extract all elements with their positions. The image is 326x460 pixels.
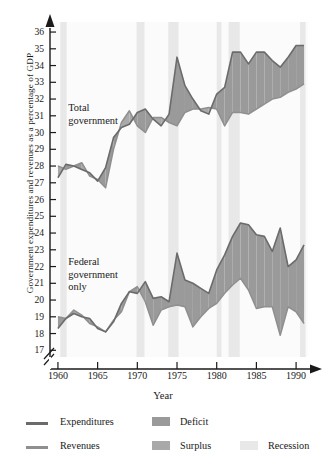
x-tick-1970: 1970 (117, 370, 157, 381)
x-tick-1980: 1980 (197, 370, 237, 381)
legend-swatch-recession (240, 441, 258, 450)
legend-label-deficit: Deficit (180, 416, 208, 427)
y-tick-22: 22 (18, 262, 44, 272)
x-tick-1990: 1990 (276, 370, 316, 381)
y-tick-32: 32 (18, 94, 44, 104)
y-tick-23: 23 (18, 245, 44, 255)
y-tick-25: 25 (18, 211, 44, 221)
legend-swatch-deficit (152, 417, 170, 426)
y-tick-20: 20 (18, 295, 44, 305)
x-tick-1985: 1985 (236, 370, 276, 381)
legend-swatch-surplus (152, 441, 170, 450)
y-tick-35: 35 (18, 44, 44, 54)
legend-swatch-revenues (26, 446, 48, 449)
x-tick-1960: 1960 (38, 370, 78, 381)
chart-legend: Expenditures Revenues Deficit Surplus Re… (0, 408, 326, 460)
y-tick-24: 24 (18, 228, 44, 238)
y-tick-26: 26 (18, 195, 44, 205)
legend-label-surplus: Surplus (180, 440, 211, 451)
legend-label-revenues: Revenues (60, 440, 100, 451)
y-tick-33: 33 (18, 77, 44, 87)
y-tick-27: 27 (18, 178, 44, 188)
y-tick-17: 17 (18, 345, 44, 355)
y-tick-18: 18 (18, 329, 44, 339)
y-tick-29: 29 (18, 144, 44, 154)
x-tick-1975: 1975 (157, 370, 197, 381)
annotation-total-government: Totalgovernment (68, 102, 118, 127)
y-tick-21: 21 (18, 278, 44, 288)
legend-label-recession: Recession (268, 440, 309, 451)
legend-label-expenditures: Expenditures (60, 416, 114, 427)
plot-area (0, 0, 326, 400)
x-tick-1965: 1965 (78, 370, 118, 381)
chart-figure: Government expenditures and revenues as … (0, 0, 326, 460)
y-tick-30: 30 (18, 128, 44, 138)
y-tick-28: 28 (18, 161, 44, 171)
y-tick-31: 31 (18, 111, 44, 121)
y-tick-19: 19 (18, 312, 44, 322)
y-tick-36: 36 (18, 27, 44, 37)
y-tick-34: 34 (18, 61, 44, 71)
annotation-federal-government: Federalgovernmentonly (68, 256, 118, 293)
legend-swatch-expenditures (26, 422, 48, 425)
